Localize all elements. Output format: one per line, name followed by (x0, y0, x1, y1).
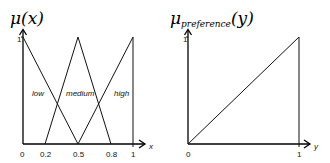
right-xtick-0: 0 (186, 150, 191, 159)
fuzzy-membership-diagrams: μ(x) 1 low medium high 0 0.2 0.5 0.8 1 x… (0, 0, 330, 163)
left-xtick-0: 0 (20, 150, 25, 159)
label-medium: medium (66, 89, 95, 98)
left-xtick-0.2: 0.2 (40, 150, 52, 159)
right-membership-chart: μpreference(y) 1 0 1 y (170, 8, 319, 159)
right-xtick-1: 1 (297, 150, 302, 159)
label-high: high (114, 89, 130, 98)
left-chart-title: μ(x) (10, 8, 44, 28)
left-xtick-0.8: 0.8 (106, 150, 118, 159)
right-ytick-1: 1 (183, 35, 188, 44)
right-chart-title: μpreference(y) (170, 8, 254, 29)
left-xtick-0.5: 0.5 (73, 150, 85, 159)
label-low: low (32, 89, 45, 98)
left-x-label: x (148, 142, 154, 151)
left-xtick-1: 1 (131, 150, 136, 159)
preference-membership-line (188, 37, 299, 144)
left-membership-chart: μ(x) 1 low medium high 0 0.2 0.5 0.8 1 x (10, 8, 154, 159)
left-ytick-1: 1 (17, 35, 22, 44)
right-x-label: y (313, 142, 319, 151)
